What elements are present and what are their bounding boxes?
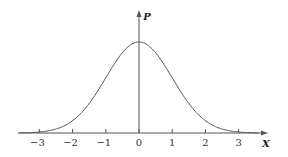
x-tick-label: 3	[235, 137, 241, 148]
x-tick-label: −1	[96, 137, 111, 148]
x-tick-label: 1	[169, 137, 175, 148]
normal-distribution-chart: X P −3−2−10123	[0, 0, 288, 157]
y-axis-label: P	[142, 11, 151, 22]
x-tick-label: 0	[136, 137, 142, 148]
x-ticks: −3−2−10123	[30, 129, 242, 148]
x-tick-label: −2	[63, 137, 78, 148]
x-tick-label: 2	[202, 137, 208, 148]
x-axis-arrow-icon	[261, 131, 268, 136]
x-axis-label: X	[261, 138, 271, 149]
x-tick-label: −3	[30, 137, 45, 148]
y-axis-arrow-icon	[137, 10, 142, 17]
